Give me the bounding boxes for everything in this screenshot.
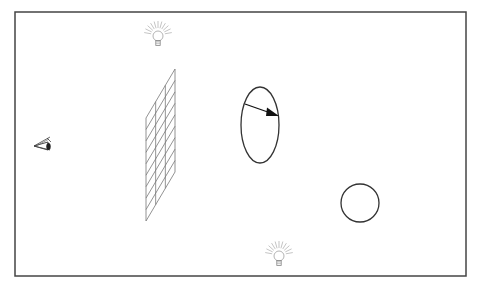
bulb-glass [274, 251, 284, 261]
light-ray [151, 23, 155, 29]
light-ray [275, 242, 277, 249]
light-bulb-icon [144, 21, 172, 46]
frame-border [15, 12, 466, 276]
light-ray [148, 26, 153, 31]
image-plane-grid [146, 69, 175, 221]
light-ray [266, 249, 272, 252]
eye-icon [34, 137, 51, 150]
light-ray [165, 33, 172, 34]
normal-arrow [245, 104, 279, 116]
light-ray [163, 26, 168, 31]
light-ray [281, 242, 283, 249]
light-bulb-icon [265, 241, 293, 266]
light-ray [285, 249, 291, 252]
light-ray [144, 33, 151, 34]
light-ray [284, 246, 289, 251]
light-ray [160, 22, 162, 29]
light-ray [283, 243, 287, 249]
ray-tracing-diagram [0, 0, 478, 289]
light-ray [154, 22, 156, 29]
light-ray [145, 29, 151, 32]
light-ray [269, 246, 274, 251]
light-ray [286, 253, 293, 254]
light-ray [162, 23, 166, 29]
light-ray [265, 253, 272, 254]
light-ray [164, 29, 170, 32]
light-ray [272, 243, 276, 249]
bulb-glass [153, 31, 163, 41]
sphere-object [341, 184, 379, 222]
ellipse-object [241, 87, 279, 163]
